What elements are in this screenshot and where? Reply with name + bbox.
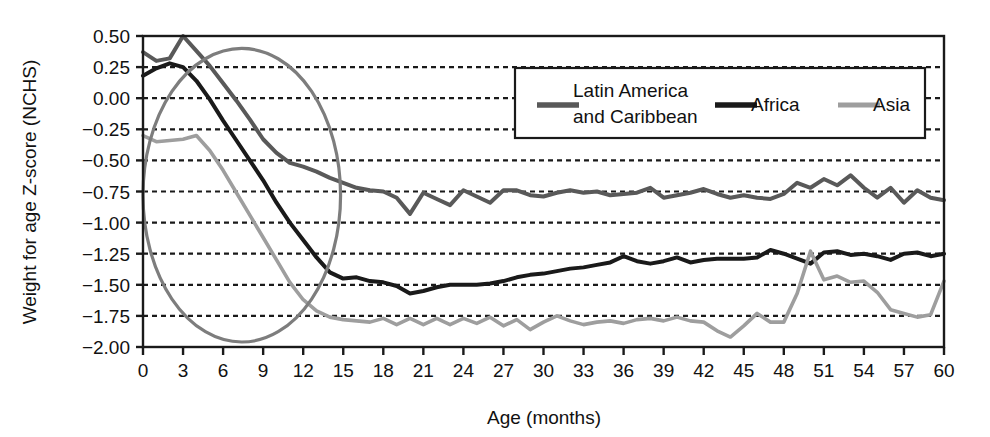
annotation-layer xyxy=(143,48,341,342)
y-axis-tick-labels: 0.500.250.00−0.25−0.50−0.75−1.00−1.25−1.… xyxy=(82,26,130,358)
x-tick-label: 54 xyxy=(853,360,875,381)
chart-figure: 03691215182124273033363942454851545760 0… xyxy=(0,0,990,437)
y-tick-label: 0.50 xyxy=(93,26,130,47)
x-axis-tick-labels: 03691215182124273033363942454851545760 xyxy=(138,360,955,381)
x-tick-label: 3 xyxy=(178,360,189,381)
x-tick-label: 33 xyxy=(573,360,594,381)
x-tick-label: 27 xyxy=(493,360,514,381)
y-tick-label: 0.25 xyxy=(93,57,130,78)
x-tick-label: 42 xyxy=(693,360,714,381)
x-tick-label: 30 xyxy=(533,360,554,381)
x-tick-label: 24 xyxy=(453,360,475,381)
legend-label-2: Asia xyxy=(873,94,910,115)
y-tick-label: −1.50 xyxy=(82,275,130,296)
legend-label-0-line1: Latin America xyxy=(573,80,689,101)
x-tick-label: 51 xyxy=(813,360,834,381)
x-tick-label: 45 xyxy=(733,360,754,381)
x-tick-label: 21 xyxy=(413,360,434,381)
line-chart: 03691215182124273033363942454851545760 0… xyxy=(0,0,990,437)
y-tick-label: −1.75 xyxy=(82,306,130,327)
x-tick-label: 12 xyxy=(293,360,314,381)
y-tick-label: −1.25 xyxy=(82,244,130,265)
chart-legend: Latin Americaand CaribbeanAfricaAsia xyxy=(515,68,925,138)
x-tick-label: 48 xyxy=(773,360,794,381)
x-tick-label: 60 xyxy=(933,360,954,381)
x-axis-title: Age (months) xyxy=(487,407,601,428)
x-tick-label: 6 xyxy=(218,360,229,381)
highlight-ellipse-icon xyxy=(143,48,341,342)
series-line-2 xyxy=(143,136,944,338)
y-tick-label: −0.50 xyxy=(82,150,130,171)
x-tick-label: 36 xyxy=(613,360,634,381)
legend-label-1: Africa xyxy=(751,94,800,115)
x-tick-label: 57 xyxy=(893,360,914,381)
x-tick-label: 9 xyxy=(258,360,269,381)
y-tick-label: −2.00 xyxy=(82,337,130,358)
x-tick-label: 0 xyxy=(138,360,149,381)
y-tick-label: −0.75 xyxy=(82,182,130,203)
x-tick-label: 18 xyxy=(373,360,394,381)
y-tick-label: −1.00 xyxy=(82,213,130,234)
y-tick-label: 0.00 xyxy=(93,88,130,109)
y-axis-title: Weight for age Z-score (NCHS) xyxy=(19,60,40,325)
legend-label-0-line2: and Caribbean xyxy=(573,106,698,127)
x-tick-label: 15 xyxy=(333,360,354,381)
y-tick-label: −0.25 xyxy=(82,119,130,140)
x-tick-label: 39 xyxy=(653,360,674,381)
